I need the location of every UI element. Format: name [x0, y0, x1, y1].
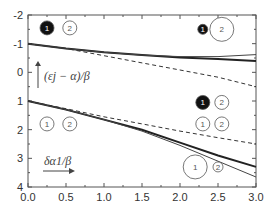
chart: 0.00.51.01.52.02.53.0 -2-101234 12121212…	[0, 0, 275, 212]
x-axis: 0.00.51.01.52.02.53.0	[20, 15, 263, 203]
orbital-marker-1-open: 1	[183, 155, 207, 179]
orbital-marker-1-open: 1	[40, 117, 54, 131]
y-tick-label: 0	[17, 66, 23, 78]
y-tick-label: -2	[13, 9, 23, 21]
svg-text:1: 1	[193, 163, 198, 172]
x-tick-label: 2.0	[172, 191, 187, 203]
svg-text:2: 2	[220, 98, 225, 107]
x-tick-label: 1.0	[96, 191, 111, 203]
svg-text:2: 2	[220, 25, 225, 34]
svg-text:1: 1	[201, 120, 206, 129]
svg-text:1: 1	[201, 25, 206, 34]
series-upper-thin	[28, 44, 256, 57]
y-tick-label: 1	[17, 95, 23, 107]
series-upper-thick	[28, 44, 256, 61]
svg-text:1: 1	[201, 98, 206, 107]
svg-text:2: 2	[220, 120, 225, 129]
orbital-marker-2-open: 2	[213, 162, 223, 172]
x-tick-label: 1.5	[134, 191, 149, 203]
y-tick-label: 4	[17, 181, 23, 193]
orbital-marker-2-open: 2	[63, 117, 77, 131]
x-tick-label: 0.5	[58, 191, 73, 203]
svg-text:2: 2	[68, 24, 73, 33]
svg-text:2: 2	[68, 120, 73, 129]
x-tick-label: 3.0	[248, 191, 263, 203]
x-tick-label: 2.5	[210, 191, 225, 203]
orbital-marker-1-filled: 1	[198, 24, 208, 34]
orbital-marker-2-open: 2	[63, 21, 77, 35]
y-tick-label: -1	[13, 38, 23, 50]
svg-text:1: 1	[45, 120, 50, 129]
orbital-marker-2-open: 2	[210, 17, 234, 41]
orbital-marker-2-open: 2	[215, 117, 229, 131]
svg-text:2: 2	[216, 163, 221, 172]
svg-text:1: 1	[45, 24, 50, 33]
y-tick-label: 2	[17, 124, 23, 136]
orbital-marker-1-open: 1	[196, 117, 210, 131]
orbital-marker-2-open: 2	[215, 95, 229, 109]
y-arrow-annotation: (εj − α)/β	[35, 61, 90, 88]
orbital-marker-1-filled: 1	[196, 95, 210, 109]
y-arrow-label: (εj − α)/β	[44, 69, 90, 83]
x-arrow-annotation: δα1/β	[43, 154, 75, 174]
x-arrow-label: δα1/β	[44, 154, 71, 168]
orbital-marker-1-filled: 1	[40, 21, 54, 35]
y-tick-label: 3	[17, 152, 23, 164]
